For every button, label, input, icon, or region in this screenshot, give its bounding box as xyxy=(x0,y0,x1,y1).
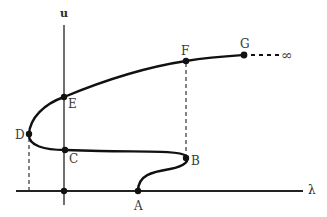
bifurcation-diagram: u λ A B C D E F G ∞ xyxy=(0,0,327,217)
point-G xyxy=(241,52,248,59)
point-C xyxy=(62,147,68,153)
u-axis-label: u xyxy=(60,7,68,20)
point-D xyxy=(26,131,32,137)
label-A: A xyxy=(133,199,143,213)
label-F: F xyxy=(181,44,189,58)
label-E: E xyxy=(68,97,77,111)
point-F xyxy=(183,58,189,64)
point-E xyxy=(61,94,67,100)
solution-branch-curve xyxy=(29,55,244,191)
label-B: B xyxy=(191,154,200,168)
label-C: C xyxy=(69,152,78,166)
label-G: G xyxy=(240,37,250,51)
point-B xyxy=(183,155,189,161)
origin-point xyxy=(61,188,67,194)
lambda-axis-label: λ xyxy=(308,183,316,197)
infinity-label: ∞ xyxy=(281,47,293,63)
point-A xyxy=(135,188,141,194)
label-D: D xyxy=(15,128,25,142)
